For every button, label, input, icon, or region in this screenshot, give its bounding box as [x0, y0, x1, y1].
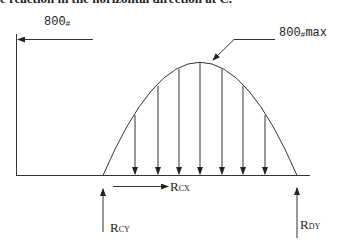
- horizontal-load-label: 800#: [44, 15, 71, 29]
- reaction-rcy: RCY: [103, 189, 130, 235]
- reaction-rcx: RCX: [113, 179, 190, 194]
- load-diagram: 800# 800#max RCX RCY RDY: [0, 0, 344, 247]
- horizontal-load-arrow: 800#: [18, 15, 93, 40]
- frame: [16, 34, 310, 176]
- rdy-label: RDY: [300, 217, 320, 232]
- rcy-label: RCY: [110, 220, 130, 235]
- reaction-rdy: RDY: [297, 188, 320, 238]
- rcx-label: RCX: [170, 179, 190, 194]
- parabolic-load: [103, 62, 297, 176]
- peak-load-label: 800#max: [279, 26, 327, 40]
- peak-leader: 800#max: [213, 26, 327, 60]
